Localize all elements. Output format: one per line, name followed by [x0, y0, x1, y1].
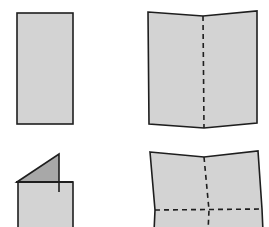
- panel-step-4: [150, 151, 263, 227]
- folded-flap: [17, 154, 59, 182]
- panel-step-2: [148, 11, 257, 128]
- diagram-canvas: [0, 0, 269, 227]
- panel-step-1: [17, 13, 73, 124]
- paper-sheet: [18, 182, 73, 227]
- paper-sheet: [17, 13, 73, 124]
- paper-folding-diagram: [0, 0, 269, 227]
- panel-step-3: [16, 154, 73, 227]
- paper-sheet-folded: [150, 151, 263, 227]
